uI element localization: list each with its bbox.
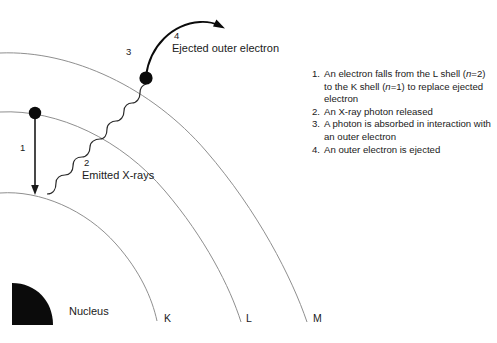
legend-item-text: An electron falls from the L shell (n=2)… (324, 68, 492, 106)
legend-item-number: 2. (312, 106, 324, 119)
callout-number-3: 3 (126, 47, 131, 57)
electron-dot-m-shell (139, 71, 152, 84)
callout-number-1: 1 (20, 143, 25, 153)
shell-label-m: M (313, 313, 322, 324)
figure-canvas: 1 2 Emitted X-rays 3 4 Ejected outer ele… (0, 0, 497, 343)
shell-label-k: K (164, 313, 171, 324)
callout-number-2: 2 (84, 158, 89, 168)
callout-caption-4: Ejected outer electron (172, 43, 279, 54)
legend-item-text: An outer electron is ejected (324, 144, 492, 157)
electron-dot-l-shell (29, 107, 41, 119)
legend-item-number: 1. (312, 68, 324, 81)
legend-item: 4.An outer electron is ejected (312, 144, 492, 157)
callout-number-4: 4 (174, 31, 179, 41)
shell-label-l: L (246, 313, 252, 324)
legend-item: 2.An X-ray photon released (312, 106, 492, 119)
transition-arrow-1 (31, 113, 39, 195)
legend-item-number: 4. (312, 144, 324, 157)
legend-item: 3.A photon is absorbed in interaction wi… (312, 118, 492, 143)
callout-caption-2: Emitted X-rays (82, 170, 154, 181)
legend-item: 1.An electron falls from the L shell (n=… (312, 68, 492, 106)
legend-item-text: An X-ray photon released (324, 106, 492, 119)
nucleus-label: Nucleus (69, 306, 109, 317)
legend-item-number: 3. (312, 118, 324, 131)
shell-arcs (0, 53, 307, 322)
legend-list: 1.An electron falls from the L shell (n=… (312, 68, 492, 156)
shell-arc-m (0, 53, 307, 322)
nucleus-shape (12, 283, 53, 325)
legend-item-text: A photon is absorbed in interaction with… (324, 118, 492, 143)
